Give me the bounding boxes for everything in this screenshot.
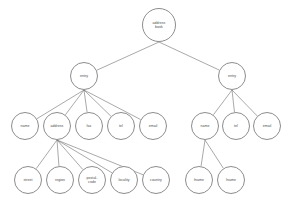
tree-node-label: country <box>149 178 163 182</box>
tree-node-a-postal[interactable]: postal- code <box>78 166 106 194</box>
tree-node-r-tel[interactable]: tel <box>222 112 250 140</box>
tree-node-l-name[interactable]: name <box>11 112 39 140</box>
tree-node-r-name[interactable]: name <box>191 112 219 140</box>
tree-node-root[interactable]: address book <box>142 8 176 42</box>
tree-node-entry-right[interactable]: entry <box>218 62 246 90</box>
tree-node-l-fax[interactable]: fax <box>75 112 103 140</box>
tree-node-label: entry <box>79 74 89 78</box>
tree-node-label: region <box>54 178 66 182</box>
tree-diagram: address bookentryentrynameaddressfaxtele… <box>0 0 297 209</box>
tree-node-l-tel[interactable]: tel <box>107 112 135 140</box>
tree-node-label: name <box>20 124 31 128</box>
tree-node-l-address[interactable]: address <box>43 112 71 140</box>
tree-node-r-email[interactable]: email <box>253 112 281 140</box>
node-layer: address bookentryentrynameaddressfaxtele… <box>0 0 297 209</box>
tree-node-label: street <box>22 178 33 182</box>
tree-node-a-locality[interactable]: locality <box>110 166 138 194</box>
tree-node-label: email <box>148 124 159 128</box>
tree-node-label: locality <box>117 178 130 182</box>
tree-node-a-street[interactable]: street <box>14 166 42 194</box>
tree-node-label: address book <box>152 21 167 29</box>
tree-node-label: fname <box>193 178 205 182</box>
tree-node-a-region[interactable]: region <box>46 166 74 194</box>
tree-node-label: lname <box>225 178 237 182</box>
tree-node-n-fname[interactable]: fname <box>185 166 213 194</box>
tree-node-entry-left[interactable]: entry <box>70 62 98 90</box>
tree-node-label: tel <box>233 124 239 128</box>
tree-node-a-country[interactable]: country <box>142 166 170 194</box>
tree-node-label: tel <box>118 124 124 128</box>
tree-node-label: name <box>200 124 211 128</box>
tree-node-label: postal- code <box>86 176 99 184</box>
tree-node-label: entry <box>227 74 237 78</box>
tree-node-label: fax <box>86 124 93 128</box>
tree-node-n-lname[interactable]: lname <box>217 166 245 194</box>
tree-node-label: address <box>50 124 65 128</box>
tree-node-l-email[interactable]: email <box>139 112 167 140</box>
tree-node-label: email <box>262 124 273 128</box>
